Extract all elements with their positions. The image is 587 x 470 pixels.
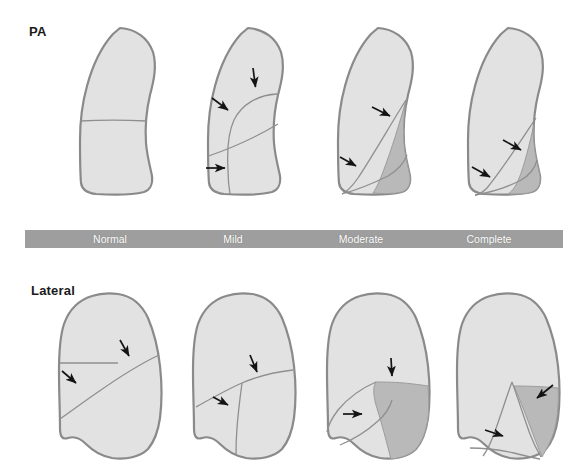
lateral-panel-mild	[193, 293, 296, 458]
lateral-panel-moderate	[327, 293, 430, 459]
severity-label-mild: Mild	[223, 233, 242, 245]
severity-label-complete: Complete	[467, 233, 512, 245]
pa-lung-outline-mild	[208, 28, 283, 195]
lateral-lung-outline-mild	[193, 293, 296, 458]
pa-panel-moderate	[338, 28, 413, 195]
lateral-arrow-moderate-upper	[391, 358, 392, 376]
lateral-panel-complete	[457, 293, 560, 459]
pa-panel-complete	[468, 28, 543, 195]
pa-row-label: PA	[29, 24, 47, 39]
pa-panel-normal	[80, 28, 155, 195]
lateral-row-label: Lateral	[31, 283, 75, 298]
severity-label-normal: Normal	[93, 233, 127, 245]
pa-lung-outline-normal	[80, 28, 155, 195]
pa-panel-mild	[206, 28, 283, 195]
lateral-lung-outline-normal	[59, 293, 162, 458]
lateral-panel-normal	[59, 293, 162, 458]
severity-label-moderate: Moderate	[339, 233, 383, 245]
atelectasis-progression-figure: PA Lateral	[0, 0, 587, 470]
